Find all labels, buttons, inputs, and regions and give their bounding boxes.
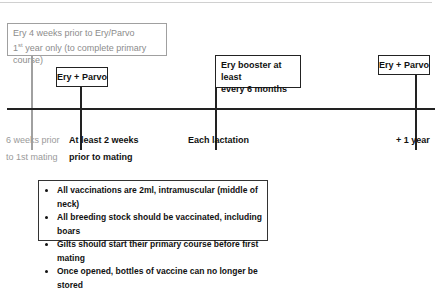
- one-year-label: + 1 year: [396, 132, 430, 149]
- gilt-box-line2: 1st year only (to complete primary cours…: [13, 39, 166, 66]
- pre-mating-label: At least 2 weeks prior to mating: [69, 132, 139, 166]
- gilt-timing-label: 6 weeks prior to 1st mating: [6, 132, 60, 166]
- gilt-primary-course-box: Ery 4 weeks prior to Ery/Parvo 1st year …: [7, 23, 167, 56]
- event-box-pre-mating: Ery + Parvo: [56, 67, 108, 87]
- note-item: Once opened, bottles of vaccine can no l…: [57, 265, 267, 292]
- notes-list: All vaccinations are 2ml, intramuscular …: [39, 184, 267, 292]
- top-divider: [0, 2, 432, 3]
- note-item: All breeding stock should be vaccinated,…: [57, 211, 267, 238]
- gilt-box-line1: Ery 4 weeks prior to Ery/Parvo: [13, 27, 166, 39]
- timeline-axis: [7, 108, 435, 110]
- event-box-one-year: Ery + Parvo: [378, 55, 430, 75]
- event-box-lactation-booster: Ery booster at least every 6 months: [215, 55, 301, 88]
- note-item: All vaccinations are 2ml, intramuscular …: [57, 184, 267, 211]
- note-item: Gilts should start their primary course …: [57, 238, 267, 265]
- notes-box: All vaccinations are 2ml, intramuscular …: [38, 180, 268, 241]
- lactation-label: Each lactation: [188, 132, 249, 149]
